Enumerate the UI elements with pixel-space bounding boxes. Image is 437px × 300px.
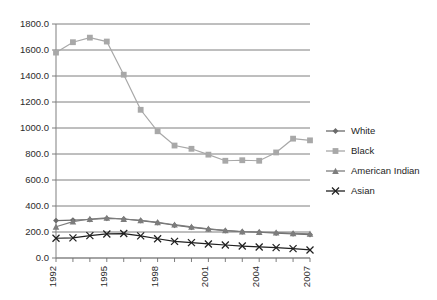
legend-item-american-indian[interactable]: American Indian (326, 165, 420, 176)
data-point-square (290, 136, 296, 142)
x-tick-label: 2007 (301, 266, 312, 287)
x-tick-label: 2004 (250, 266, 261, 287)
legend: WhiteBlackAmerican IndianAsian (326, 125, 420, 196)
y-tick-label: 1000.0 (20, 122, 49, 133)
y-tick-label: 1200.0 (20, 96, 49, 107)
data-point-square (239, 157, 245, 163)
legend-label: Asian (351, 185, 375, 196)
x-tick-label: 1992 (47, 266, 58, 287)
x-tick-labels: 199219951998200120042007 (47, 266, 312, 287)
chart-canvas: 0.0200.0400.0600.0800.01000.01200.01400.… (0, 0, 437, 300)
data-point-square (87, 35, 93, 41)
legend-item-asian[interactable]: Asian (326, 185, 375, 196)
data-point-diamond (53, 218, 59, 224)
legend-item-white[interactable]: White (326, 125, 375, 136)
data-point-square (138, 107, 144, 113)
y-tick-label: 1400.0 (20, 70, 49, 81)
gridlines-group (56, 24, 310, 258)
data-point-square (172, 143, 178, 149)
legend-label: Black (351, 145, 374, 156)
data-point-square (70, 39, 76, 45)
x-tick-label: 1995 (98, 266, 109, 287)
series-line (56, 234, 310, 250)
legend-label: American Indian (351, 165, 420, 176)
data-point-diamond (333, 128, 339, 134)
data-point-square (53, 50, 59, 56)
data-point-square (256, 158, 262, 164)
x-tick-label: 1998 (149, 266, 160, 287)
line-chart: 0.0200.0400.0600.0800.01000.01200.01400.… (0, 0, 437, 300)
series-group (53, 35, 314, 254)
y-tick-label: 1800.0 (20, 18, 49, 29)
series-line (56, 38, 310, 161)
data-point-square (121, 72, 127, 78)
y-tick-label: 1600.0 (20, 44, 49, 55)
data-point-square (222, 158, 228, 164)
data-point-square (333, 148, 339, 154)
legend-item-black[interactable]: Black (326, 145, 374, 156)
y-tick-label: 0.0 (36, 252, 49, 263)
data-point-square (273, 150, 279, 156)
legend-label: White (351, 125, 375, 136)
data-point-square (206, 152, 212, 158)
series-black (53, 35, 313, 164)
y-tick-label: 800.0 (25, 148, 49, 159)
y-tick-labels: 0.0200.0400.0600.0800.01000.01200.01400.… (20, 18, 49, 263)
y-tick-label: 600.0 (25, 174, 49, 185)
y-tick-label: 400.0 (25, 200, 49, 211)
series-line (56, 218, 310, 234)
x-tick-label: 2001 (199, 266, 210, 287)
data-point-square (155, 128, 161, 134)
data-point-square (104, 39, 110, 45)
y-tick-label: 200.0 (25, 226, 49, 237)
data-point-square (189, 146, 195, 152)
data-point-square (307, 137, 313, 143)
